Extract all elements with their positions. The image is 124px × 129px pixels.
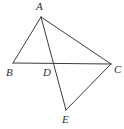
geometry-figure: A B D C E [0, 0, 124, 129]
figure-canvas [0, 0, 124, 129]
segment-bc [13, 63, 111, 64]
vertex-label-d: D [43, 67, 51, 78]
vertex-label-b: B [6, 67, 13, 78]
segment-ab [13, 17, 41, 63]
segment-ce [66, 64, 111, 110]
vertex-label-a: A [36, 1, 43, 12]
vertex-label-c: C [114, 64, 121, 75]
vertex-label-e: E [62, 114, 69, 125]
